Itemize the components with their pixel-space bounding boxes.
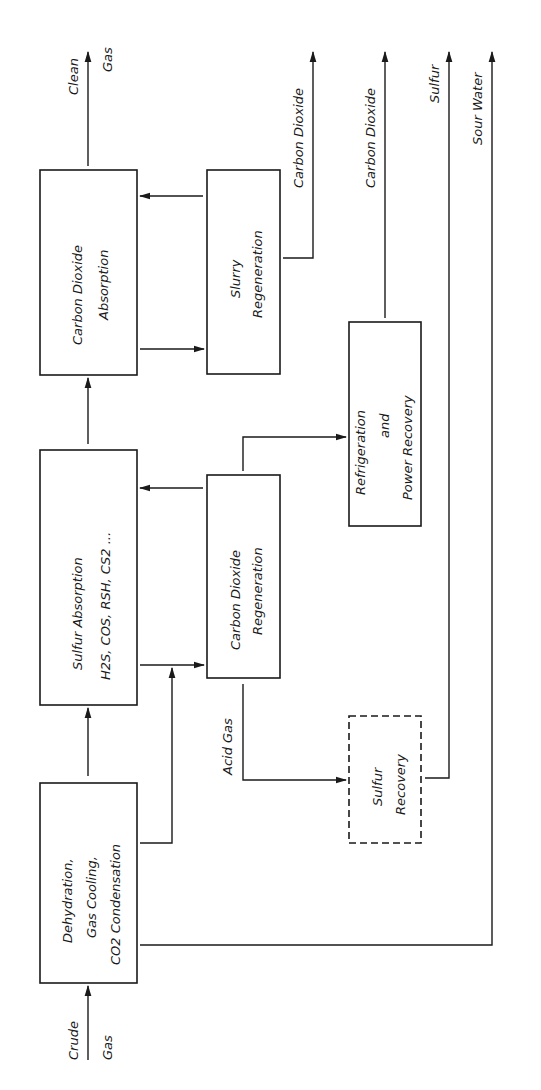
svg-text:Refrigeration: Refrigeration (353, 410, 368, 495)
box-sulfur-absorption (40, 450, 137, 705)
svg-text:H2S, COS, RSH, CS2 ...: H2S, COS, RSH, CS2 ... (98, 532, 113, 680)
svg-text:Carbon Dioxide: Carbon Dioxide (70, 245, 85, 345)
svg-text:Power Recovery: Power Recovery (400, 395, 415, 500)
input-label-gas: Gas (100, 1035, 115, 1060)
arrow-sulfur-out (425, 52, 449, 778)
arrow-dehydration-to-co2-regeneration (140, 668, 172, 843)
arrow-acid-gas-to-sulfur-recovery (243, 684, 346, 780)
svg-text:Carbon Dioxide: Carbon Dioxide (228, 550, 243, 650)
process-flow-diagram: Crude Gas Dehydration, Gas Cooling, CO2 … (0, 0, 541, 1090)
box-co2-absorption (40, 170, 137, 375)
svg-text:Sulfur: Sulfur (370, 766, 385, 806)
svg-text:Regeneration: Regeneration (250, 230, 265, 318)
box-co2-regeneration (207, 475, 280, 678)
svg-text:Recovery: Recovery (393, 754, 408, 815)
output-label-sour-water: Sour Water (470, 71, 485, 145)
arrow-co2-regeneration-to-refrigeration (243, 437, 346, 471)
label-co2-regeneration: Carbon Dioxide Regeneration (228, 547, 265, 650)
label-sulfur-recovery: Sulfur Recovery (370, 754, 408, 815)
output-label-carbon-dioxide-2: Carbon Dioxide (363, 88, 378, 188)
svg-text:Absorption: Absorption (96, 250, 111, 321)
svg-text:Regeneration: Regeneration (250, 547, 265, 635)
svg-text:Gas Cooling,: Gas Cooling, (84, 856, 99, 938)
box-slurry-regeneration (207, 170, 280, 374)
output-label-clean: Clean (66, 58, 81, 95)
label-slurry-regeneration: Slurry Regeneration (228, 230, 265, 318)
svg-text:Slurry: Slurry (228, 259, 243, 298)
output-label-gas: Gas (100, 47, 115, 72)
label-co2-absorption: Carbon Dioxide Absorption (70, 245, 111, 345)
arrow-dehydration-to-sour-water (140, 52, 492, 945)
svg-text:Sulfur Absorption: Sulfur Absorption (70, 557, 85, 670)
output-label-carbon-dioxide-1: Carbon Dioxide (291, 88, 306, 188)
label-dehydration: Dehydration, Gas Cooling, CO2 Condensati… (60, 844, 123, 965)
output-label-sulfur: Sulfur (427, 63, 442, 103)
label-sulfur-absorption: Sulfur Absorption H2S, COS, RSH, CS2 ... (70, 532, 113, 680)
svg-text:and: and (377, 413, 392, 438)
label-refrigeration: Refrigeration and Power Recovery (353, 395, 415, 500)
svg-text:Dehydration,: Dehydration, (60, 858, 75, 943)
box-sulfur-recovery (349, 716, 421, 843)
stream-label-acid-gas: Acid Gas (220, 718, 235, 776)
input-label-crude: Crude (66, 1021, 81, 1060)
svg-text:CO2 Condensation: CO2 Condensation (108, 844, 123, 965)
